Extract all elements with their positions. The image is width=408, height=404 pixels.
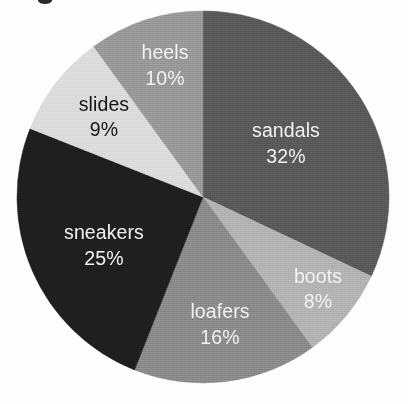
- pie-slice-value-heels: 10%: [145, 67, 184, 89]
- pie-slice-label-heels: heels: [141, 41, 188, 63]
- pie-slice-label-boots: boots: [294, 265, 342, 287]
- pie-slice-label-sandals: sandals: [252, 119, 320, 141]
- pie-slice-value-sandals: 32%: [266, 145, 305, 167]
- pie-slice-label-sneakers: sneakers: [64, 221, 144, 243]
- pie-chart-figure: sandals32%boots8%loafers16%sneakers25%sl…: [0, 0, 408, 404]
- pie-slice-label-loafers: loafers: [190, 300, 249, 322]
- pie-chart-canvas: sandals32%boots8%loafers16%sneakers25%sl…: [0, 0, 408, 404]
- pie-slice-label-slides: slides: [79, 93, 130, 115]
- pie-slice-value-loafers: 16%: [200, 326, 239, 348]
- pie-slice-value-sneakers: 25%: [84, 247, 123, 269]
- pie-slice-value-boots: 8%: [304, 290, 332, 312]
- pie-slice-value-slides: 9%: [90, 118, 118, 140]
